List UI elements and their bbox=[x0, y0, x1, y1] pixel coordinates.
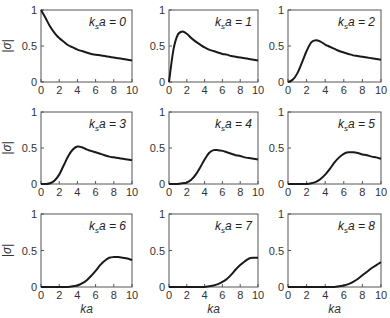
subplot-6: 024681000.51ksa = 6|σ|ka bbox=[0, 208, 138, 316]
x-tick-label: 6 bbox=[93, 84, 99, 96]
subplot-8: 024681000.51ksa = 8ka bbox=[269, 208, 387, 316]
x-tick-label: 8 bbox=[111, 186, 117, 198]
x-tick-label: 10 bbox=[252, 289, 264, 301]
x-tick-label: 2 bbox=[304, 289, 310, 301]
y-tick-label: 0.5 bbox=[22, 142, 37, 154]
x-tick-label: 8 bbox=[111, 84, 117, 96]
y-tick-label: 1 bbox=[31, 208, 37, 220]
y-tick-label: 1 bbox=[159, 4, 165, 16]
x-tick-label: 10 bbox=[126, 186, 138, 198]
subplot-1: 024681000.51ksa = 1 bbox=[150, 4, 264, 96]
y-tick-label: 1 bbox=[159, 208, 165, 220]
x-tick-label: 4 bbox=[322, 84, 328, 96]
x-tick-label: 10 bbox=[252, 84, 264, 96]
x-tick-label: 0 bbox=[285, 186, 291, 198]
y-axis-label: |σ| bbox=[0, 141, 14, 154]
x-tick-label: 0 bbox=[285, 289, 291, 301]
subplot-7: 024681000.51ksa = 7ka bbox=[150, 208, 264, 316]
y-axis-label: |σ| bbox=[0, 244, 14, 257]
x-tick-label: 2 bbox=[184, 84, 190, 96]
y-tick-label: 0 bbox=[159, 178, 165, 190]
y-tick-label: 0.5 bbox=[269, 245, 284, 257]
y-tick-label: 0 bbox=[159, 281, 165, 293]
y-tick-label: 0.5 bbox=[150, 142, 165, 154]
curve-line bbox=[288, 262, 381, 287]
y-tick-label: 1 bbox=[31, 4, 37, 16]
x-tick-label: 6 bbox=[93, 186, 99, 198]
curve-line bbox=[41, 257, 132, 287]
x-tick-label: 8 bbox=[359, 186, 365, 198]
y-tick-label: 0.5 bbox=[150, 245, 165, 257]
x-tick-label: 2 bbox=[184, 289, 190, 301]
y-tick-label: 1 bbox=[278, 4, 284, 16]
y-tick-label: 0 bbox=[278, 178, 284, 190]
ksa-annotation: ksa = 1 bbox=[215, 15, 252, 31]
y-tick-label: 0 bbox=[31, 76, 37, 88]
x-tick-label: 0 bbox=[38, 289, 44, 301]
x-axis-label: ka bbox=[328, 302, 341, 316]
x-tick-label: 10 bbox=[252, 186, 264, 198]
subplot-2: 024681000.51ksa = 2 bbox=[269, 4, 387, 96]
curve-line bbox=[288, 152, 381, 184]
y-tick-label: 0 bbox=[278, 281, 284, 293]
y-tick-label: 0.5 bbox=[22, 245, 37, 257]
x-tick-label: 2 bbox=[304, 186, 310, 198]
ksa-annotation: ksa = 4 bbox=[215, 117, 252, 133]
ksa-annotation: ksa = 3 bbox=[89, 117, 126, 133]
x-tick-label: 6 bbox=[219, 289, 225, 301]
x-tick-label: 0 bbox=[285, 84, 291, 96]
ksa-annotation: ksa = 7 bbox=[215, 219, 253, 235]
x-tick-label: 6 bbox=[93, 289, 99, 301]
y-axis-label: |σ| bbox=[0, 39, 14, 52]
x-tick-label: 8 bbox=[359, 84, 365, 96]
y-tick-label: 0 bbox=[31, 178, 37, 190]
y-tick-label: 1 bbox=[31, 106, 37, 118]
x-tick-label: 0 bbox=[166, 84, 172, 96]
curve-line bbox=[41, 146, 132, 184]
y-tick-label: 0.5 bbox=[150, 40, 165, 52]
x-tick-label: 10 bbox=[126, 84, 138, 96]
y-tick-label: 1 bbox=[278, 106, 284, 118]
figure-grid: 024681000.51ksa = 0|σ|024681000.51ksa = … bbox=[0, 0, 390, 318]
curve-line bbox=[288, 40, 381, 82]
x-tick-label: 10 bbox=[375, 289, 387, 301]
x-tick-label: 2 bbox=[56, 186, 62, 198]
x-tick-label: 4 bbox=[202, 289, 208, 301]
x-tick-label: 0 bbox=[38, 84, 44, 96]
x-tick-label: 2 bbox=[56, 289, 62, 301]
x-tick-label: 10 bbox=[126, 289, 138, 301]
x-tick-label: 4 bbox=[322, 289, 328, 301]
y-tick-label: 0 bbox=[31, 281, 37, 293]
x-axis-label: ka bbox=[207, 302, 220, 316]
x-tick-label: 8 bbox=[359, 289, 365, 301]
x-tick-label: 4 bbox=[202, 84, 208, 96]
x-axis-label: ka bbox=[80, 302, 93, 316]
x-tick-label: 6 bbox=[341, 289, 347, 301]
subplot-4: 024681000.51ksa = 4 bbox=[150, 106, 264, 198]
x-tick-label: 4 bbox=[74, 84, 80, 96]
y-tick-label: 1 bbox=[278, 208, 284, 220]
x-tick-label: 10 bbox=[375, 84, 387, 96]
ksa-annotation: ksa = 0 bbox=[89, 15, 126, 31]
x-tick-label: 8 bbox=[111, 289, 117, 301]
y-tick-label: 0.5 bbox=[269, 142, 284, 154]
x-tick-label: 10 bbox=[375, 186, 387, 198]
x-tick-label: 2 bbox=[184, 186, 190, 198]
x-tick-label: 6 bbox=[219, 84, 225, 96]
ksa-annotation: ksa = 8 bbox=[338, 219, 375, 235]
subplot-0: 024681000.51ksa = 0|σ| bbox=[0, 4, 138, 96]
x-tick-label: 4 bbox=[322, 186, 328, 198]
ksa-annotation: ksa = 2 bbox=[338, 15, 375, 31]
y-tick-label: 0 bbox=[159, 76, 165, 88]
curve-line bbox=[169, 258, 258, 287]
x-tick-label: 0 bbox=[166, 289, 172, 301]
x-tick-label: 4 bbox=[74, 289, 80, 301]
y-tick-label: 0.5 bbox=[269, 40, 284, 52]
x-tick-label: 2 bbox=[304, 84, 310, 96]
x-tick-label: 8 bbox=[237, 84, 243, 96]
x-tick-label: 0 bbox=[38, 186, 44, 198]
curve-line bbox=[169, 32, 258, 82]
ksa-annotation: ksa = 6 bbox=[89, 219, 126, 235]
subplot-3: 024681000.51ksa = 3|σ| bbox=[0, 106, 138, 198]
subplot-5: 024681000.51ksa = 5 bbox=[269, 106, 387, 198]
